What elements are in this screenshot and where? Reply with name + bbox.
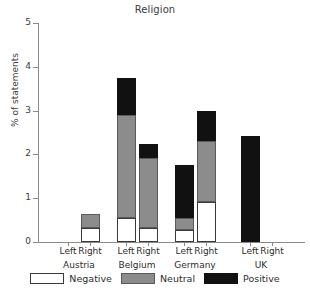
legend-item-neutral: Neutral bbox=[121, 273, 195, 284]
y-tick-mark bbox=[33, 242, 38, 243]
x-axis-line bbox=[33, 242, 305, 243]
bar-segment-negative bbox=[175, 230, 194, 242]
y-tick-label: 5 bbox=[17, 18, 31, 27]
bar-segment-neutral bbox=[139, 158, 158, 228]
x-label-uk-right: Right bbox=[252, 246, 292, 256]
bar-belgium-left bbox=[117, 78, 136, 242]
legend-swatch-negative bbox=[30, 273, 64, 284]
bar-uk-left bbox=[241, 136, 260, 242]
bar-segment-neutral bbox=[197, 141, 216, 201]
legend-label-neutral: Neutral bbox=[160, 273, 195, 284]
y-tick-label: 0 bbox=[17, 237, 31, 246]
bar-belgium-right bbox=[139, 144, 158, 242]
bar-segment-positive bbox=[241, 136, 260, 242]
y-tick-label: 2 bbox=[17, 149, 31, 158]
bar-segment-positive bbox=[175, 165, 194, 218]
y-tick-mark bbox=[33, 111, 38, 112]
plot-area: 012345 bbox=[38, 23, 304, 242]
bar-germany-right bbox=[197, 111, 216, 242]
bar-segment-positive bbox=[117, 78, 136, 115]
y-tick-label: 1 bbox=[17, 193, 31, 202]
bar-germany-left bbox=[175, 165, 194, 242]
legend-label-positive: Positive bbox=[243, 273, 280, 284]
chart-legend: NegativeNeutralPositive bbox=[0, 273, 310, 284]
y-axis-line bbox=[38, 23, 39, 242]
y-axis-label: % of statements bbox=[10, 25, 20, 155]
x-label-germany-right: Right bbox=[186, 246, 226, 256]
x-label-austria-right: Right bbox=[70, 246, 110, 256]
bar-austria-right bbox=[81, 214, 100, 242]
x-label-belgium-right: Right bbox=[128, 246, 168, 256]
bar-segment-positive bbox=[197, 111, 216, 142]
y-tick-label: 4 bbox=[17, 62, 31, 71]
bar-segment-negative bbox=[139, 228, 158, 242]
bar-segment-positive bbox=[139, 144, 158, 158]
bar-segment-neutral bbox=[81, 214, 100, 229]
legend-label-negative: Negative bbox=[69, 273, 112, 284]
y-tick-mark bbox=[33, 23, 38, 24]
bar-segment-neutral bbox=[175, 218, 194, 230]
chart-title: Religion bbox=[0, 4, 310, 15]
legend-swatch-neutral bbox=[121, 273, 155, 284]
y-tick-mark bbox=[33, 154, 38, 155]
legend-swatch-positive bbox=[204, 273, 238, 284]
bar-segment-negative bbox=[197, 202, 216, 242]
y-tick-mark bbox=[33, 67, 38, 68]
bar-segment-neutral bbox=[117, 115, 136, 218]
y-tick-mark bbox=[33, 198, 38, 199]
x-label-country-uk: UK bbox=[221, 260, 301, 270]
legend-item-negative: Negative bbox=[30, 273, 112, 284]
bar-segment-negative bbox=[117, 218, 136, 242]
bar-segment-negative bbox=[81, 228, 100, 242]
religion-stacked-bar-chart: Religion % of statements 012345 LeftRigh… bbox=[0, 0, 310, 291]
legend-item-positive: Positive bbox=[204, 273, 280, 284]
y-tick-label: 3 bbox=[17, 106, 31, 115]
